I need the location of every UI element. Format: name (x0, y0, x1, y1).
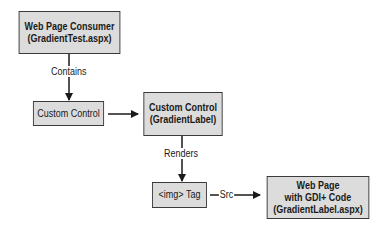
node-custom-control: Custom Control (33, 101, 104, 126)
edge-label-src: Src (219, 189, 234, 200)
node-label: (GradientLabel.aspx) (273, 204, 363, 216)
node-web-page-consumer: Web Page Consumer (GradientTest.aspx) (19, 11, 121, 54)
node-label: with GDI+ Code (285, 192, 352, 204)
node-label: Custom Control (149, 102, 217, 114)
node-custom-control-gradientlabel: Custom Control (GradientLabel) (143, 92, 222, 136)
node-label: Web Page (297, 180, 340, 192)
node-label: Custom Control (37, 108, 100, 120)
node-web-page-gdi: Web Page with GDI+ Code (GradientLabel.a… (267, 176, 370, 219)
node-label: (GradientLabel) (150, 114, 217, 126)
edge-label-contains: Contains (51, 66, 87, 77)
node-label: Web Page Consumer (25, 21, 115, 33)
node-label: (GradientTest.aspx) (28, 33, 112, 45)
node-label: <img> Tag (159, 189, 201, 201)
node-img-tag: <img> Tag (152, 182, 207, 208)
edge-label-renders: Renders (164, 148, 198, 159)
